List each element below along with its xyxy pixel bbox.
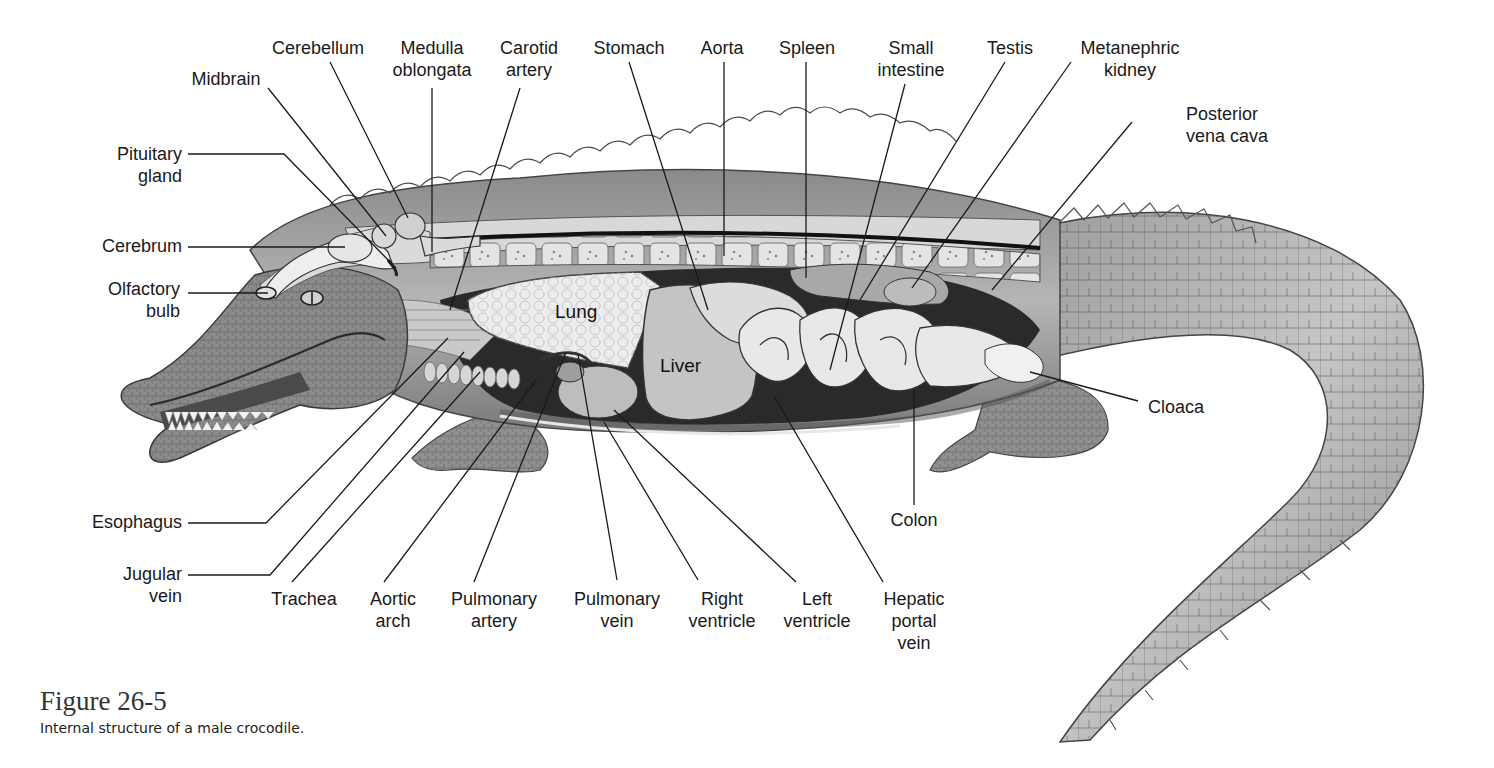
label-medulla-oblongata: Medullaoblongata (392, 38, 472, 80)
label-testis: Testis (987, 38, 1033, 58)
figure-description: Internal structure of a male crocodile. (40, 720, 304, 736)
tail (1030, 203, 1423, 742)
testis-shape (884, 278, 936, 306)
cerebellum-shape (395, 213, 425, 239)
label-esophagus: Esophagus (92, 512, 182, 532)
label-cloaca: Cloaca (1148, 397, 1205, 417)
figure-stage: Lung Liver CerebellumMedullaoblongataMid… (0, 0, 1494, 768)
label-colon: Colon (890, 510, 937, 530)
label-trachea: Trachea (271, 589, 337, 609)
label-carotid-artery: Carotidartery (500, 38, 558, 80)
lung-label: Lung (555, 301, 597, 322)
label-jugular-vein: Jugularvein (123, 564, 182, 606)
label-stomach: Stomach (593, 38, 664, 58)
label-small-intestine: Smallintestine (877, 38, 944, 80)
label-hepatic-portal-vein: Hepaticportalvein (883, 589, 944, 653)
leader-line-cerebellum (330, 62, 408, 218)
label-midbrain: Midbrain (191, 69, 260, 89)
label-posterior-vena-cava: Posteriorvena cava (1186, 104, 1269, 146)
crocodile-anatomy-diagram: Lung Liver CerebellumMedullaoblongataMid… (0, 0, 1494, 768)
label-pulmonary-artery: Pulmonaryartery (451, 589, 537, 631)
figure-caption: Figure 26-5 Internal structure of a male… (40, 686, 304, 736)
figure-number: Figure 26-5 (40, 686, 304, 716)
label-aortic-arch: Aorticarch (370, 589, 416, 631)
leader-line-left-ventricle (614, 410, 796, 582)
label-left-ventricle: Leftventricle (783, 589, 850, 631)
label-pituitary-gland: Pituitarygland (117, 144, 182, 186)
label-spleen: Spleen (779, 38, 835, 58)
label-cerebrum: Cerebrum (102, 236, 182, 256)
label-aorta: Aorta (700, 38, 744, 58)
midbrain-shape (372, 224, 396, 248)
label-metanephric-kidney: Metanephrickidney (1080, 38, 1179, 80)
label-right-ventricle: Rightventricle (688, 589, 755, 631)
label-olfactory-bulb: Olfactorybulb (108, 279, 180, 321)
label-cerebellum: Cerebellum (272, 38, 364, 58)
liver-label: Liver (660, 355, 702, 376)
cerebrum-shape (328, 234, 372, 262)
label-pulmonary-vein: Pulmonaryvein (574, 589, 660, 631)
